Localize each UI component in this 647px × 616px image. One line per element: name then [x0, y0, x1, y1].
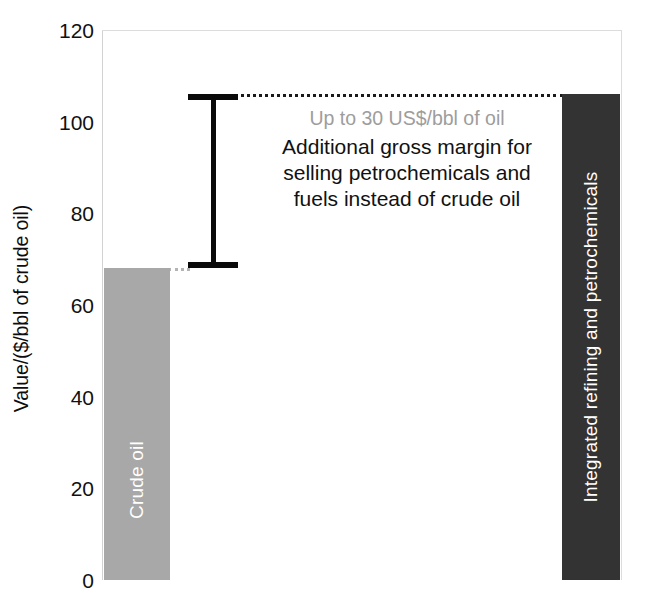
y-tick-120: 120: [38, 20, 94, 41]
gap-callout-line-3: fuels instead of crude oil: [252, 186, 562, 212]
bar-crude-oil[interactable]: Crude oil: [104, 268, 170, 580]
gap-callout-body: Additional gross margin for selling petr…: [252, 134, 562, 212]
bar-integrated-refining-and-petrochemicals[interactable]: Integrated refining and petrochemicals: [562, 94, 620, 580]
gap-callout-line-2: selling petrochemicals and: [252, 160, 562, 186]
y-tick-0: 0: [38, 570, 94, 591]
y-tick-40: 40: [38, 386, 94, 407]
y-tick-20: 20: [38, 478, 94, 499]
y-axis-title-text: Value/($/bbl of crude oil): [11, 204, 34, 411]
axis-spine-top: [102, 30, 622, 31]
gap-range-indicator: [188, 94, 238, 268]
gap-callout-line-1: Additional gross margin for: [252, 134, 562, 160]
gap-callout-headline: Up to 30 US$/bbl of oil: [252, 106, 562, 132]
y-tick-80: 80: [38, 203, 94, 224]
y-axis-tick-labels: 120 100 80 60 40 20 0: [32, 0, 94, 616]
bar-crude-oil-label: Crude oil: [126, 441, 148, 519]
connector-line-integrated-level: [192, 94, 564, 97]
bar-integrated-label: Integrated refining and petrochemicals: [580, 172, 602, 503]
gap-cap-bottom-icon: [188, 262, 238, 268]
gap-stem: [211, 94, 216, 268]
connector-line-crude-level: [168, 268, 190, 271]
plot-area: Crude oil Integrated refining and petroc…: [102, 30, 622, 580]
y-tick-100: 100: [38, 111, 94, 132]
y-tick-60: 60: [38, 295, 94, 316]
gap-callout: Up to 30 US$/bbl of oil Additional gross…: [252, 106, 562, 212]
axis-spine-right: [621, 30, 622, 580]
axis-spine-left: [102, 30, 103, 580]
bar-chart-figure: Value/($/bbl of crude oil) 120 100 80 60…: [0, 0, 647, 616]
